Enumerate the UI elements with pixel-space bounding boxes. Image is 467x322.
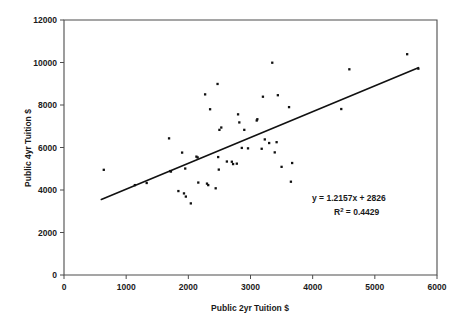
data-point	[271, 62, 273, 64]
data-point	[247, 147, 249, 149]
data-point	[207, 184, 209, 186]
data-point	[168, 137, 170, 139]
data-point	[231, 161, 233, 163]
x-tick-label: 0	[62, 282, 67, 292]
chart-canvas: 020004000600080001000012000 010002000300…	[0, 0, 467, 322]
regression-equation: y = 1.2157x + 2826	[312, 193, 386, 203]
data-point	[197, 156, 199, 158]
data-point	[184, 167, 186, 169]
data-point	[216, 83, 218, 85]
y-tick-label: 10000	[33, 58, 57, 68]
data-point	[177, 190, 179, 192]
x-axis-title: Public 2yr Tuition $	[211, 303, 289, 313]
regression-annotation: y = 1.2157x + 2826 R2 = 0.4429	[312, 193, 386, 217]
data-point	[274, 151, 276, 153]
data-point	[262, 96, 264, 98]
data-point	[217, 156, 219, 158]
scatter-chart: 020004000600080001000012000 010002000300…	[0, 0, 467, 322]
x-axis: 0100020003000400050006000	[62, 275, 447, 292]
data-point	[232, 163, 234, 165]
x-tick-label: 5000	[365, 282, 384, 292]
y-tick-label: 2000	[38, 228, 57, 238]
data-point	[288, 106, 290, 108]
data-point	[348, 68, 350, 70]
trendline-path	[101, 68, 418, 200]
data-point	[204, 93, 206, 95]
data-point	[291, 162, 293, 164]
data-point	[185, 195, 187, 197]
r-squared-annotation: R2 = 0.4429	[334, 207, 379, 218]
data-point	[268, 142, 270, 144]
y-axis: 020004000600080001000012000	[33, 15, 64, 280]
x-tick-label: 4000	[303, 282, 322, 292]
data-points	[103, 53, 420, 204]
data-point	[243, 129, 245, 131]
data-point	[197, 181, 199, 183]
data-point	[237, 113, 239, 115]
data-point	[261, 148, 263, 150]
data-point	[238, 121, 240, 123]
y-tick-label: 0	[52, 270, 57, 280]
x-tick-label: 6000	[428, 282, 447, 292]
data-point	[406, 53, 408, 55]
x-tick-label: 1000	[117, 282, 136, 292]
data-point	[190, 202, 192, 204]
data-point	[340, 108, 342, 110]
x-tick-label: 3000	[241, 282, 260, 292]
y-tick-label: 12000	[33, 15, 57, 25]
data-point	[264, 138, 266, 140]
data-point	[134, 184, 136, 186]
data-point	[236, 163, 238, 165]
data-point	[170, 170, 172, 172]
data-point	[183, 192, 185, 194]
data-point	[220, 126, 222, 128]
y-tick-label: 6000	[38, 143, 57, 153]
data-point	[226, 160, 228, 162]
y-tick-label: 4000	[38, 185, 57, 195]
y-tick-label: 8000	[38, 100, 57, 110]
plot-border	[64, 20, 437, 275]
data-point	[241, 147, 243, 149]
data-point	[146, 182, 148, 184]
x-tick-label: 2000	[179, 282, 198, 292]
data-point	[280, 166, 282, 168]
data-point	[277, 94, 279, 96]
plot-frame	[64, 20, 437, 275]
y-axis-title: Public 4yr Tuition $	[23, 109, 33, 187]
data-point	[103, 169, 105, 171]
r-squared-value: = 0.4429	[343, 207, 379, 217]
data-point	[181, 151, 183, 153]
data-point	[215, 187, 217, 189]
data-point	[218, 168, 220, 170]
data-point	[275, 141, 277, 143]
data-point	[218, 129, 220, 131]
data-point	[417, 68, 419, 70]
data-point	[256, 118, 258, 120]
data-point	[209, 108, 211, 110]
data-point	[290, 181, 292, 183]
trendline	[101, 68, 418, 200]
